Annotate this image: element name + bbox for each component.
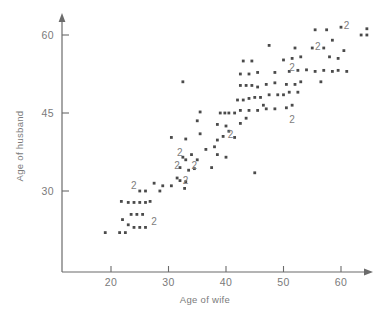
data-point	[239, 109, 242, 112]
data-point	[311, 47, 314, 50]
data-point	[130, 213, 133, 216]
data-point	[265, 83, 268, 86]
scatter-plot-figure: 2030405060 304560 22222222222 Age of wif…	[0, 0, 391, 323]
data-point	[328, 55, 331, 58]
data-point	[262, 104, 265, 107]
data-point	[135, 213, 138, 216]
data-point	[161, 184, 164, 187]
data-point	[138, 190, 141, 193]
data-point	[149, 200, 152, 203]
data-point	[144, 201, 147, 204]
y-axis-arrow-icon	[59, 13, 66, 22]
data-point	[187, 169, 190, 172]
data-point	[276, 93, 279, 96]
data-point	[291, 57, 294, 60]
data-point	[153, 182, 156, 185]
data-point	[314, 28, 317, 31]
overplot-count-label: 2	[315, 41, 321, 52]
data-point	[285, 106, 288, 109]
data-point	[248, 109, 251, 112]
data-points-group	[104, 26, 368, 234]
data-point	[216, 123, 219, 126]
data-point	[253, 96, 256, 99]
data-point	[127, 201, 130, 204]
data-point	[236, 99, 239, 102]
y-tick-label: 45	[42, 107, 54, 119]
data-point	[253, 171, 256, 174]
data-point	[256, 86, 259, 89]
data-point	[199, 111, 202, 114]
data-point	[319, 80, 322, 83]
overplot-count-label: 2	[289, 62, 295, 73]
data-point	[294, 83, 297, 86]
x-tick-label: 60	[335, 276, 347, 288]
y-axis-ticks: 304560	[42, 29, 69, 197]
data-point	[322, 47, 325, 50]
data-point	[223, 112, 226, 115]
data-point	[245, 117, 248, 120]
data-point	[216, 139, 219, 142]
data-point	[141, 213, 144, 216]
data-point	[196, 119, 199, 122]
overplot-count-label: 2	[289, 114, 295, 125]
data-point	[337, 69, 340, 72]
plot-canvas: 2030405060 304560 22222222222 Age of wif…	[0, 0, 391, 323]
x-axis-title: Age of wife	[180, 294, 230, 305]
data-point	[190, 153, 193, 156]
y-axis-title: Age of husband	[14, 111, 25, 182]
data-point	[179, 179, 182, 182]
data-point	[265, 107, 268, 110]
data-point	[337, 57, 340, 60]
data-point	[216, 153, 219, 156]
data-point	[305, 68, 308, 71]
data-point	[138, 201, 141, 204]
x-axis-ticks: 2030405060	[105, 266, 347, 288]
data-point	[331, 70, 334, 73]
data-point	[250, 84, 253, 87]
data-point	[273, 107, 276, 110]
data-point	[242, 99, 245, 102]
overplot-count-label: 2	[183, 175, 189, 186]
data-point	[360, 34, 363, 37]
data-point	[273, 71, 276, 74]
data-point	[285, 83, 288, 86]
y-tick-label: 30	[42, 185, 54, 197]
data-point	[118, 231, 121, 234]
data-point	[225, 125, 228, 128]
data-point	[204, 148, 207, 151]
data-point	[239, 122, 242, 125]
data-point	[248, 97, 251, 100]
x-tick-label: 50	[277, 276, 289, 288]
data-point	[183, 187, 186, 190]
data-point	[233, 136, 236, 139]
data-point	[213, 145, 216, 148]
data-point	[133, 201, 136, 204]
data-point	[299, 80, 302, 83]
data-point	[282, 59, 285, 62]
data-point	[291, 104, 294, 107]
data-point	[331, 39, 334, 42]
data-point	[219, 112, 222, 115]
data-point	[296, 91, 299, 94]
overplot-count-label: 2	[177, 147, 183, 158]
data-point	[245, 84, 248, 87]
data-point	[288, 91, 291, 94]
data-point	[314, 70, 317, 73]
data-point	[294, 47, 297, 50]
data-point	[322, 69, 325, 72]
data-point	[144, 226, 147, 229]
overplot-count-label: 2	[131, 180, 137, 191]
data-point	[340, 26, 343, 29]
data-point	[345, 70, 348, 73]
data-point	[158, 190, 161, 193]
x-tick-label: 30	[162, 276, 174, 288]
data-point	[181, 80, 184, 83]
overplot-count-label: 2	[228, 129, 234, 140]
data-point	[127, 223, 130, 226]
data-point	[120, 200, 123, 203]
overplot-count-label: 2	[191, 160, 197, 171]
data-point	[296, 69, 299, 72]
x-tick-label: 20	[105, 276, 117, 288]
data-point	[222, 135, 225, 138]
data-point	[248, 73, 251, 76]
